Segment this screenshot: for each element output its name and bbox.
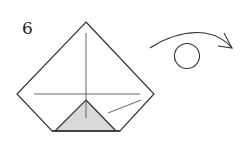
origami-diagram [0,0,244,149]
turn-over-arrow-icon [150,33,232,69]
